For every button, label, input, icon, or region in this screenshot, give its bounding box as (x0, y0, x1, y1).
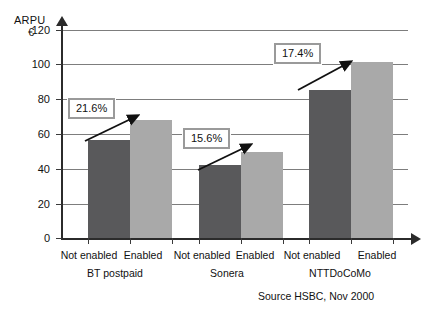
annotation-21-6-percent: 21.6% (68, 98, 115, 119)
y-tick-80 (56, 99, 62, 100)
x-tick-6 (309, 238, 310, 244)
bar-ntt-enabled (351, 62, 393, 240)
y-tick-label-80: 80 (20, 94, 50, 105)
y-tick-label-100: 100 (20, 59, 50, 70)
y-tick-0 (56, 238, 62, 239)
bar-ntt-not-enabled (309, 90, 351, 240)
x-label-ntt-not-enabled: Not enabled (273, 250, 351, 261)
y-axis-arrowhead (56, 16, 68, 26)
y-axis-line (61, 24, 63, 240)
x-axis-line (61, 238, 413, 240)
y-tick-120 (56, 30, 62, 31)
x-tick-8 (393, 238, 394, 244)
annotation-17-4-percent: 17.4% (274, 43, 321, 64)
group-label-sonera: Sonera (187, 268, 267, 279)
bar-sonera-enabled (241, 152, 283, 240)
y-tick-label-120: 120 (20, 25, 50, 36)
x-tick-3 (199, 238, 200, 244)
y-tick-label-60: 60 (20, 129, 50, 140)
x-tick-7 (351, 238, 352, 244)
y-tick-60 (56, 134, 62, 135)
group-label-nttdocomo: NTTDoCoMo (290, 268, 390, 279)
y-tick-label-0: 0 (20, 233, 50, 244)
bar-sonera-not-enabled (199, 165, 241, 240)
group-label-bt-postpaid: BT postpaid (70, 268, 160, 279)
y-tick-40 (56, 169, 62, 170)
annotation-15-6-percent: 15.6% (183, 128, 230, 149)
bar-bt-not-enabled (88, 140, 130, 240)
y-tick-100 (56, 64, 62, 65)
x-tick-5 (283, 238, 284, 244)
bar-series (62, 24, 414, 240)
x-label-ntt-enabled: Enabled (346, 250, 408, 261)
x-axis-arrowhead (411, 233, 421, 245)
x-tick-2 (172, 238, 173, 244)
y-tick-label-40: 40 (20, 164, 50, 175)
bar-bt-enabled (130, 120, 172, 240)
y-tick-label-20: 20 (20, 199, 50, 210)
chart-figure: ARPU € 120 100 80 60 40 20 0 (0, 0, 444, 313)
x-tick-4 (241, 238, 242, 244)
x-tick-1 (130, 238, 131, 244)
x-tick-0 (88, 238, 89, 244)
y-tick-20 (56, 204, 62, 205)
source-note: Source HSBC, Nov 2000 (258, 290, 374, 302)
